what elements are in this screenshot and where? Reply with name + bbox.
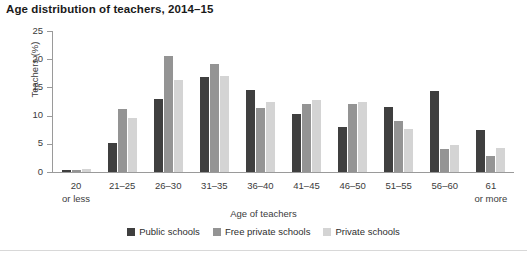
y-tick: 25	[47, 31, 52, 32]
bar[interactable]	[118, 109, 127, 172]
y-tick: 5	[47, 144, 52, 145]
bar[interactable]	[404, 129, 413, 172]
bar-group	[330, 31, 376, 172]
chart-container: Age distribution of teachers, 2014–15 Te…	[0, 0, 527, 257]
y-tick-label: 5	[38, 137, 43, 148]
bar[interactable]	[348, 104, 357, 172]
footer-divider	[0, 250, 527, 251]
legend-swatch-icon	[213, 228, 221, 236]
bar[interactable]	[358, 102, 367, 172]
bar-group	[145, 31, 191, 172]
bar[interactable]	[62, 170, 71, 172]
bar-group	[53, 31, 99, 172]
chart-title: Age distribution of teachers, 2014–15	[6, 3, 214, 15]
y-tick-label: 10	[32, 109, 43, 120]
y-axis-title: Teachers (%)	[29, 30, 40, 110]
legend-item[interactable]: Free private schools	[213, 226, 311, 237]
bar[interactable]	[384, 107, 393, 172]
legend-label: Private schools	[335, 226, 399, 237]
y-tick: 15	[47, 87, 52, 88]
legend-swatch-icon	[323, 228, 331, 236]
bar-groups	[53, 31, 514, 172]
bar[interactable]	[256, 108, 265, 172]
bar[interactable]	[302, 104, 311, 172]
y-tick-label: 15	[32, 81, 43, 92]
bar[interactable]	[440, 149, 449, 172]
bar[interactable]	[394, 121, 403, 172]
bar[interactable]	[154, 99, 163, 172]
y-tick: 10	[47, 116, 52, 117]
plot-area: Teachers (%) 0510152025	[0, 28, 527, 178]
bar-group	[422, 31, 468, 172]
bar-group	[99, 31, 145, 172]
bar[interactable]	[312, 100, 321, 172]
legend-swatch-icon	[127, 228, 135, 236]
chart-legend: Public schoolsFree private schoolsPrivat…	[0, 226, 527, 237]
bar[interactable]	[72, 170, 81, 172]
bar[interactable]	[266, 102, 275, 173]
bar[interactable]	[108, 143, 117, 172]
bar[interactable]	[430, 91, 439, 172]
x-axis-title: Age of teachers	[0, 208, 527, 219]
bar-group	[191, 31, 237, 172]
legend-label: Public schools	[139, 226, 200, 237]
x-axis-line	[52, 172, 514, 173]
bar[interactable]	[220, 76, 229, 172]
legend-label: Free private schools	[225, 226, 311, 237]
bar[interactable]	[476, 130, 485, 172]
bar[interactable]	[292, 114, 301, 172]
y-tick-label: 0	[38, 166, 43, 177]
bar-group	[468, 31, 514, 172]
bar-group	[376, 31, 422, 172]
y-tick: 0	[47, 172, 52, 173]
bar[interactable]	[128, 118, 137, 172]
bar-group	[283, 31, 329, 172]
bar[interactable]	[82, 169, 91, 172]
y-tick: 20	[47, 59, 52, 60]
legend-item[interactable]: Private schools	[323, 226, 399, 237]
bar[interactable]	[486, 156, 495, 172]
bar[interactable]	[164, 56, 173, 172]
bar[interactable]	[450, 145, 459, 172]
y-tick-label: 25	[32, 25, 43, 36]
bar[interactable]	[338, 127, 347, 172]
bar[interactable]	[210, 64, 219, 172]
bar[interactable]	[174, 80, 183, 172]
y-tick-label: 20	[32, 53, 43, 64]
bar[interactable]	[246, 90, 255, 172]
bar[interactable]	[200, 77, 209, 172]
legend-item[interactable]: Public schools	[127, 226, 200, 237]
bar[interactable]	[496, 148, 505, 172]
bar-group	[237, 31, 283, 172]
